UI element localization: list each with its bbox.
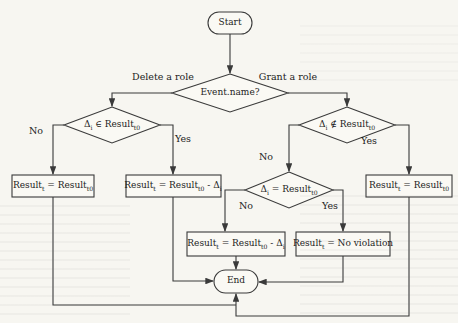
connector-left-no (53, 125, 64, 174)
delta-notin-result-decision-label: Δi ∉ Resultt0 (319, 120, 375, 129)
result-unchanged-left-box-label: Resultt = Resultt0 (13, 181, 93, 190)
edge-label-middle-no: No (239, 201, 253, 211)
start-label: Start (218, 18, 241, 27)
connector-right-yes (395, 125, 409, 174)
connector-delete-role-branch (112, 93, 172, 106)
event-name-decision-label: Event.name? (200, 88, 259, 97)
delta-in-result-decision-label: Δi ∈ Resultt0 (84, 120, 140, 129)
edge-label-left-no: No (29, 126, 43, 136)
edge-label-middle-yes: Yes (322, 201, 338, 211)
result-minus-delta-left-box-label: Resultt = Resultt0 - Δi (124, 181, 221, 190)
end-label: End (227, 276, 245, 285)
connector-grant-role-branch (288, 93, 347, 106)
connector-no-violation-to-end (259, 256, 343, 282)
edge-label-left-yes: Yes (175, 134, 191, 144)
branch-label-delete-a-role: Delete a role (132, 72, 194, 82)
result-minus-delta-middle-box-label: Resultt = Resultt0 - Δi (187, 239, 284, 248)
delta-equals-result-decision-label: Δi = Resultt0 (260, 185, 317, 194)
connector-right-no (289, 125, 299, 171)
result-unchanged-right-box-label: Resultt = Resultt0 (369, 181, 449, 190)
flowchart-figure: Start Event.name? Delete a role Grant a … (0, 0, 458, 323)
connector-left-yes (160, 125, 173, 174)
no-violation-box-label: Resultt = No violation (293, 239, 393, 248)
edge-label-right-no: No (259, 152, 273, 162)
edge-label-right-yes: Yes (361, 136, 377, 146)
branch-label-grant-a-role: Grant a role (259, 72, 317, 82)
